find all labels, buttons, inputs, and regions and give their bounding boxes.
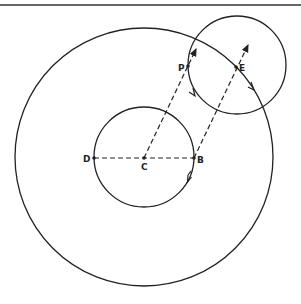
label-B: B xyxy=(197,155,204,165)
point-B xyxy=(192,156,196,160)
point-E xyxy=(234,65,238,69)
geometry-diagram: P E D C B xyxy=(0,0,301,304)
point-C xyxy=(142,156,146,160)
label-D: D xyxy=(83,154,90,164)
label-E: E xyxy=(239,63,245,73)
point-D xyxy=(92,156,96,160)
small-circle xyxy=(188,16,286,114)
label-P: P xyxy=(178,63,185,73)
dashed-arrow-B-E xyxy=(194,45,248,158)
label-C: C xyxy=(141,162,148,172)
point-P xyxy=(186,64,190,68)
